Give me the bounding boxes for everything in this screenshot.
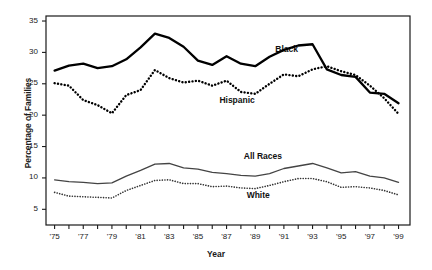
series-line-hispanic — [55, 66, 399, 114]
series-line-white — [55, 179, 399, 198]
series-line-all-races — [55, 163, 399, 183]
chart-figure: Percentage of Families Year 510152025303… — [0, 0, 432, 270]
plot-canvas — [0, 0, 432, 270]
series-line-black — [55, 34, 399, 104]
plot-frame — [46, 16, 410, 225]
